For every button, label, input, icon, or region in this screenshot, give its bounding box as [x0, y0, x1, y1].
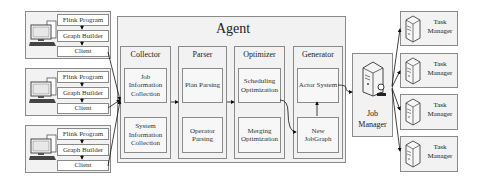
job-to-task-arrows — [392, 29, 400, 151]
agent-flow-arrows — [171, 85, 352, 132]
client-to-agent-arrows — [108, 52, 120, 166]
connectors — [0, 0, 481, 186]
